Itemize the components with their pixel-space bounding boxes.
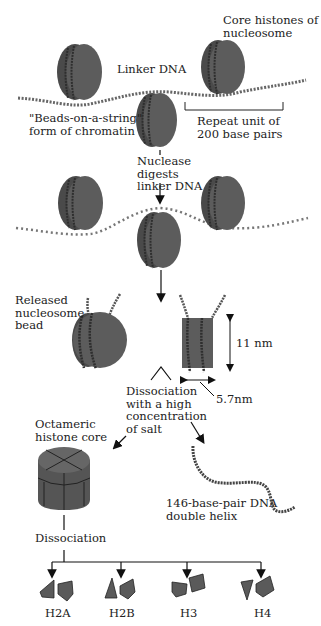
histone-h3-pieces — [172, 574, 205, 597]
core-histones-label: Core histones of nucleosome — [223, 14, 318, 39]
nucleosome-side-view — [180, 295, 230, 396]
dna-helix-label: 146-base-pair DNA double helix — [166, 497, 277, 522]
nucleosome-bead-1 — [57, 44, 102, 100]
dissociation-label: Dissociation — [35, 532, 106, 545]
repeat-unit-label: Repeat unit of 200 base pairs — [197, 115, 282, 140]
released-bead-label: Released nucleosome bead — [15, 294, 84, 332]
histone-label-h2b: H2B — [109, 607, 135, 620]
octameric-core-label: Octameric histone core — [35, 418, 107, 443]
linker-dna-label: Linker DNA — [117, 63, 186, 76]
histone-h2a-pieces — [40, 580, 73, 601]
octameric-histone-core — [38, 447, 90, 530]
nucleosome-bead-3 — [201, 40, 245, 94]
nucleosome-bead-5 — [137, 212, 181, 268]
histone-label-h4: H4 — [254, 607, 271, 620]
chromatin-diagram: Core histones of nucleosome Linker DNA "… — [0, 0, 321, 626]
width-dimension-label: 5.7nm — [216, 393, 253, 406]
dissociation-tree — [52, 550, 261, 574]
salt-dissociation-label: Dissociation with a high concentration o… — [126, 385, 207, 435]
histone-h4-pieces — [241, 576, 274, 600]
repeat-unit-bracket — [185, 102, 283, 110]
histone-label-h3: H3 — [180, 607, 197, 620]
nucleosome-bead-6 — [201, 176, 245, 230]
histone-label-h2a: H2A — [45, 607, 71, 620]
nuclease-label: Nuclease digests linker DNA — [137, 155, 202, 193]
nucleosome-bead-4 — [58, 176, 103, 230]
histone-h2b-pieces — [105, 578, 135, 599]
beads-on-string-label: "Beads-on-a-string" form of chromatin — [29, 112, 142, 137]
digested-chromatin — [16, 176, 308, 298]
split-arrows — [151, 367, 171, 380]
height-dimension-label: 11 nm — [236, 337, 273, 350]
